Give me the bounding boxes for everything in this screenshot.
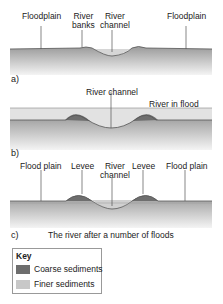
key-title: Key	[16, 251, 32, 261]
key-item-fine: Finer sediments	[16, 279, 94, 289]
key-item-coarse: Coarse sediments	[16, 264, 103, 274]
panel-letter-c: c)	[11, 230, 19, 240]
label-flood-plain-left: Flood plain	[20, 162, 62, 171]
panel-a-diagram	[10, 26, 212, 75]
legend-key: Key Coarse sediments Finer sediments	[12, 248, 102, 294]
label-levee-left: Levee	[71, 162, 94, 171]
coarse-swatch-icon	[16, 265, 30, 274]
label-river-channel-c: River channel	[100, 162, 130, 180]
key-label-fine: Finer sediments	[34, 279, 94, 289]
label-flood-plain-right: Flood plain	[166, 162, 208, 171]
panel-c-caption: The river after a number of floods	[48, 230, 174, 240]
panel-letter-a: a)	[11, 74, 19, 84]
label-river-in-flood: River in flood	[149, 100, 199, 109]
label-river-channel-b: River channel	[86, 88, 138, 97]
label-line: channel	[100, 171, 130, 180]
key-label-coarse: Coarse sediments	[34, 264, 103, 274]
label-levee-right: Levee	[132, 162, 155, 171]
panel-letter-b: b)	[11, 148, 19, 158]
label-floodplain-left: Floodplain	[22, 12, 61, 21]
label-river-channel: River channel	[100, 12, 130, 30]
label-floodplain-right: Floodplain	[167, 12, 206, 21]
label-line: channel	[100, 21, 130, 30]
fine-swatch-icon	[16, 280, 30, 289]
label-river-banks: River banks	[72, 12, 95, 30]
label-line: banks	[72, 21, 95, 30]
